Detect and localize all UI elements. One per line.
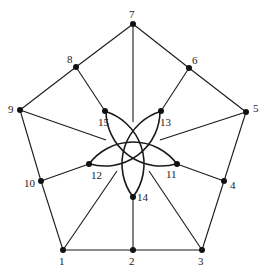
radial-spoke [149, 171, 202, 250]
node-label-13: 13 [160, 117, 171, 128]
node-point-14 [130, 194, 136, 200]
edge-line [76, 67, 105, 111]
radial-spoke [160, 112, 246, 140]
node-label-15: 15 [98, 117, 109, 128]
edge-line [202, 181, 224, 250]
node-point-11 [174, 161, 180, 167]
edge-line [41, 181, 63, 250]
edge-line [224, 112, 246, 181]
node-label-14: 14 [137, 192, 148, 203]
node-label-12: 12 [91, 170, 102, 181]
node-label-1: 1 [59, 256, 65, 267]
node-label-5: 5 [253, 103, 259, 114]
node-label-9: 9 [8, 104, 14, 115]
node-point-12 [86, 161, 92, 167]
node-point-4 [221, 178, 227, 184]
edge-line [133, 24, 189, 68]
node-point-10 [38, 178, 44, 184]
node-label-2: 2 [129, 256, 135, 267]
node-point-13 [158, 108, 164, 114]
node-point-1 [60, 247, 66, 253]
node-label-11: 11 [166, 169, 177, 180]
node-label-7: 7 [129, 9, 135, 20]
node-point-3 [199, 247, 205, 253]
node-label-3: 3 [198, 256, 204, 267]
node-label-6: 6 [192, 55, 198, 66]
circular-arc [89, 142, 177, 164]
node-point-5 [243, 109, 249, 115]
radial-spoke [20, 110, 106, 140]
node-point-8 [73, 64, 79, 70]
node-label-4: 4 [230, 180, 236, 191]
edge-line [20, 67, 76, 110]
edge-line [177, 164, 224, 181]
edge-line [41, 164, 89, 181]
edge-line [161, 68, 189, 111]
pentagon-arc-diagram: 123456789101112131415 [0, 0, 264, 275]
node-point-2 [130, 247, 136, 253]
edge-line [189, 68, 246, 112]
node-point-9 [17, 107, 23, 113]
node-point-7 [130, 21, 136, 27]
diagram-canvas [0, 0, 264, 275]
node-label-8: 8 [67, 54, 73, 65]
edge-line [76, 24, 133, 67]
node-label-10: 10 [24, 178, 35, 189]
edge-line [20, 110, 41, 181]
node-point-15 [102, 108, 108, 114]
radial-spoke [63, 171, 117, 250]
